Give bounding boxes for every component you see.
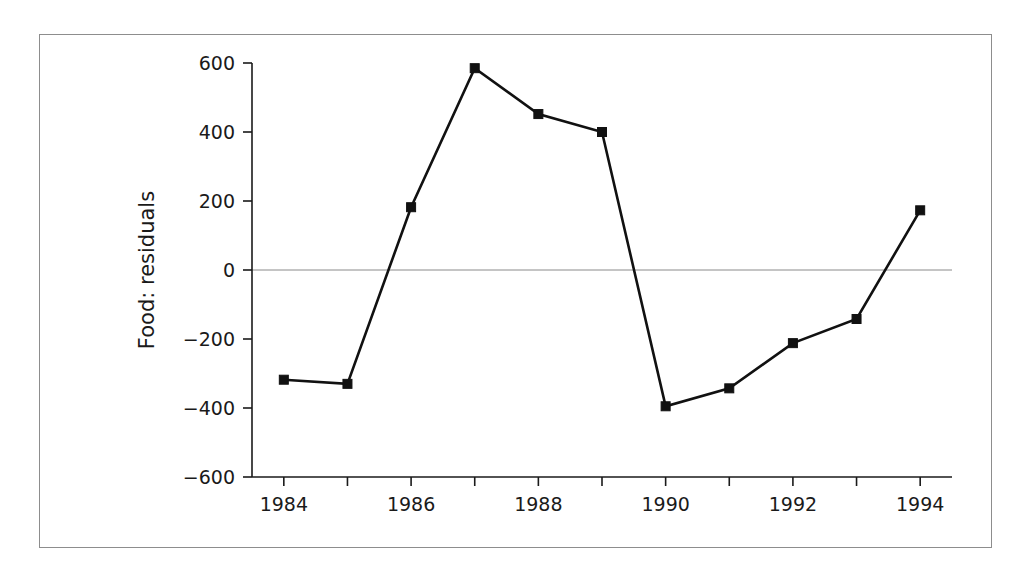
y-axis-tick-labels: −600−400−2000200400600 — [183, 52, 235, 488]
y-tick-label: −200 — [183, 328, 235, 350]
data-point-marker — [916, 206, 925, 215]
x-tick-label: 1990 — [641, 493, 689, 515]
data-point-marker — [788, 339, 797, 348]
data-point-marker — [852, 314, 861, 323]
y-tick-label: −400 — [183, 397, 235, 419]
y-tick-label: 600 — [199, 52, 235, 74]
data-point-marker — [598, 128, 607, 137]
y-axis: −600−400−2000200400600 — [183, 52, 252, 488]
x-axis-tick-labels: 198419861988199019921994 — [260, 493, 945, 515]
series-food-residuals — [279, 64, 924, 411]
y-tick-label: −600 — [183, 466, 235, 488]
y-tick-label: 0 — [223, 259, 235, 281]
x-tick-label: 1992 — [769, 493, 817, 515]
y-tick-label: 400 — [199, 121, 235, 143]
series-line-path — [284, 68, 920, 406]
figure-frame: −600−400−2000200400600 19841986198819901… — [39, 34, 992, 548]
data-point-marker — [407, 203, 416, 212]
data-point-marker — [470, 64, 479, 73]
x-axis-ticks — [284, 477, 920, 486]
y-axis-ticks — [243, 63, 252, 477]
x-tick-label: 1986 — [387, 493, 435, 515]
data-point-marker — [534, 110, 543, 119]
x-axis: 198419861988199019921994 — [252, 477, 952, 515]
series-markers — [279, 64, 924, 411]
data-point-marker — [343, 379, 352, 388]
y-axis-title: Food: residuals — [135, 191, 159, 349]
y-axis-title-text: Food: residuals — [135, 191, 159, 349]
x-tick-label: 1984 — [260, 493, 308, 515]
line-chart: −600−400−2000200400600 19841986198819901… — [40, 35, 991, 547]
y-tick-label: 200 — [199, 190, 235, 212]
data-point-marker — [661, 402, 670, 411]
x-tick-label: 1994 — [896, 493, 944, 515]
x-tick-label: 1988 — [514, 493, 562, 515]
data-point-marker — [279, 375, 288, 384]
figure-page: −600−400−2000200400600 19841986198819901… — [0, 0, 1022, 572]
data-point-marker — [725, 384, 734, 393]
